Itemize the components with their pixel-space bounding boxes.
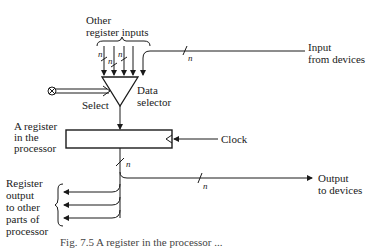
bus-width-label: n [203, 181, 208, 191]
inputs-brace [97, 37, 150, 46]
other-register-inputs-label: register inputs [86, 26, 149, 38]
bus-width-label: n [126, 159, 131, 169]
register-output-label: Register [6, 177, 43, 189]
bus-width-label: n [108, 56, 113, 66]
input-from-devices-label: Input [308, 41, 331, 53]
register-output-label: output [6, 189, 34, 201]
output-to-devices-label: to devices [318, 184, 362, 196]
register-output-label: to other [6, 201, 40, 213]
register-label: processor [14, 142, 56, 154]
register-box [66, 130, 172, 148]
select-label: Select [82, 99, 109, 111]
outputs-brace [55, 184, 63, 226]
bus-width-label: n [188, 53, 193, 63]
output-to-devices-label: Output [318, 172, 349, 184]
clock-label: Clock [221, 133, 247, 145]
input-from-devices-label: from devices [308, 53, 365, 65]
figure-caption: Fig. 7.5 A register in the processor ... [60, 236, 223, 248]
data-selector-label: Data [137, 84, 158, 96]
bus-width-label: n [98, 49, 103, 59]
register-output-label: processor [6, 225, 48, 237]
data-selector-label: selector [137, 96, 171, 108]
other-register-inputs-label: Other [86, 14, 111, 26]
bus-width-label: n [118, 49, 123, 59]
register-output-label: parts of [6, 213, 39, 225]
